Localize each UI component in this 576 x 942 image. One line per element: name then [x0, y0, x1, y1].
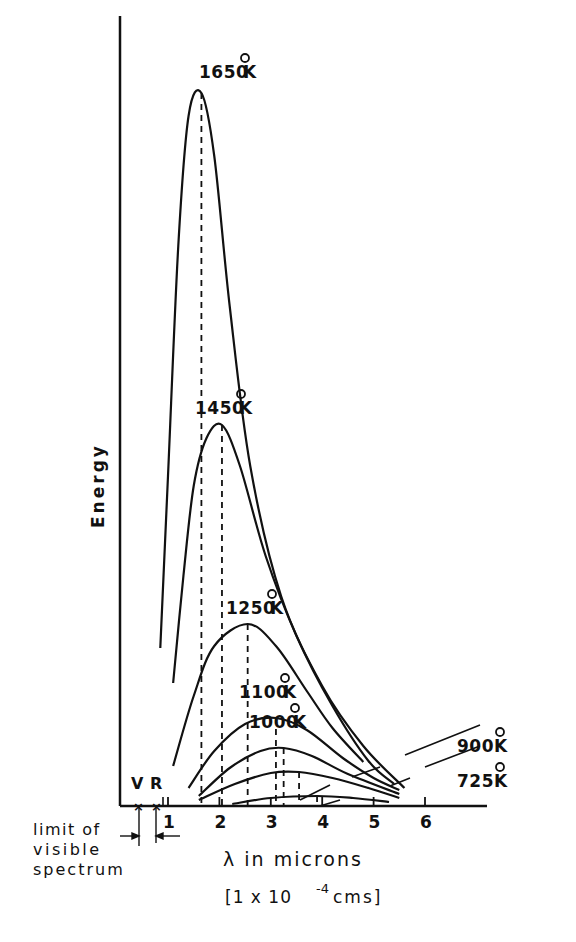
degree-icon — [291, 704, 299, 712]
svg-text:K: K — [243, 62, 257, 82]
x-axis-units: [1 x 10 -4 cms] — [225, 881, 382, 907]
label-1250k: 1250K — [226, 590, 284, 618]
limit-text-line1: limit of — [33, 820, 101, 839]
label-1650k: 1650K — [199, 54, 257, 82]
degree-icon — [496, 728, 504, 736]
svg-text:725: 725 — [457, 771, 494, 791]
x-tick-label: 3 — [266, 812, 278, 832]
units-open: [1 x 10 — [225, 887, 292, 907]
x-tick-label: 5 — [369, 812, 381, 832]
svg-text:K: K — [494, 736, 508, 756]
r-marker-label: R — [150, 774, 162, 793]
svg-text:1650: 1650 — [199, 62, 248, 82]
degree-icon — [241, 54, 249, 62]
label-1100k: 1100K — [239, 674, 297, 702]
units-close: cms] — [333, 887, 382, 907]
x-tick-label: 6 — [420, 812, 432, 832]
blackbody-radiation-chart: 123456 1650K1450K1250K1100K1000K900K725K… — [0, 0, 576, 942]
svg-text:K: K — [293, 712, 307, 732]
svg-text:K: K — [239, 398, 253, 418]
x-axis-ticks: 123456 — [163, 797, 432, 832]
svg-text:1100: 1100 — [239, 682, 288, 702]
svg-text:K: K — [283, 682, 297, 702]
label-1000k: 1000K — [249, 704, 307, 732]
x-tick-label: 1 — [163, 812, 175, 832]
svg-text:1250: 1250 — [226, 598, 275, 618]
degree-icon — [268, 590, 276, 598]
x-axis-label: λ in microns — [223, 848, 363, 870]
x-tick-label: 4 — [317, 812, 329, 832]
y-axis-label: Energy — [88, 443, 108, 528]
degree-icon — [496, 763, 504, 771]
svg-text:1000: 1000 — [249, 712, 298, 732]
svg-text:K: K — [494, 771, 508, 791]
svg-text:900: 900 — [457, 736, 494, 756]
limit-text-line2: visible — [33, 840, 102, 859]
label-1450k: 1450K — [195, 390, 253, 418]
label-725k: 725K — [457, 763, 508, 791]
v-marker-label: V — [131, 774, 144, 793]
label-900k: 900K — [457, 728, 508, 756]
curve-725k — [232, 796, 389, 804]
limit-text-line3: spectrum — [33, 860, 125, 879]
svg-text:K: K — [270, 598, 284, 618]
x-tick-label: 2 — [214, 812, 226, 832]
degree-icon — [281, 674, 289, 682]
units-exponent: -4 — [316, 881, 329, 896]
svg-text:1450: 1450 — [195, 398, 244, 418]
temperature-labels: 1650K1450K1250K1100K1000K900K725K — [195, 54, 508, 791]
